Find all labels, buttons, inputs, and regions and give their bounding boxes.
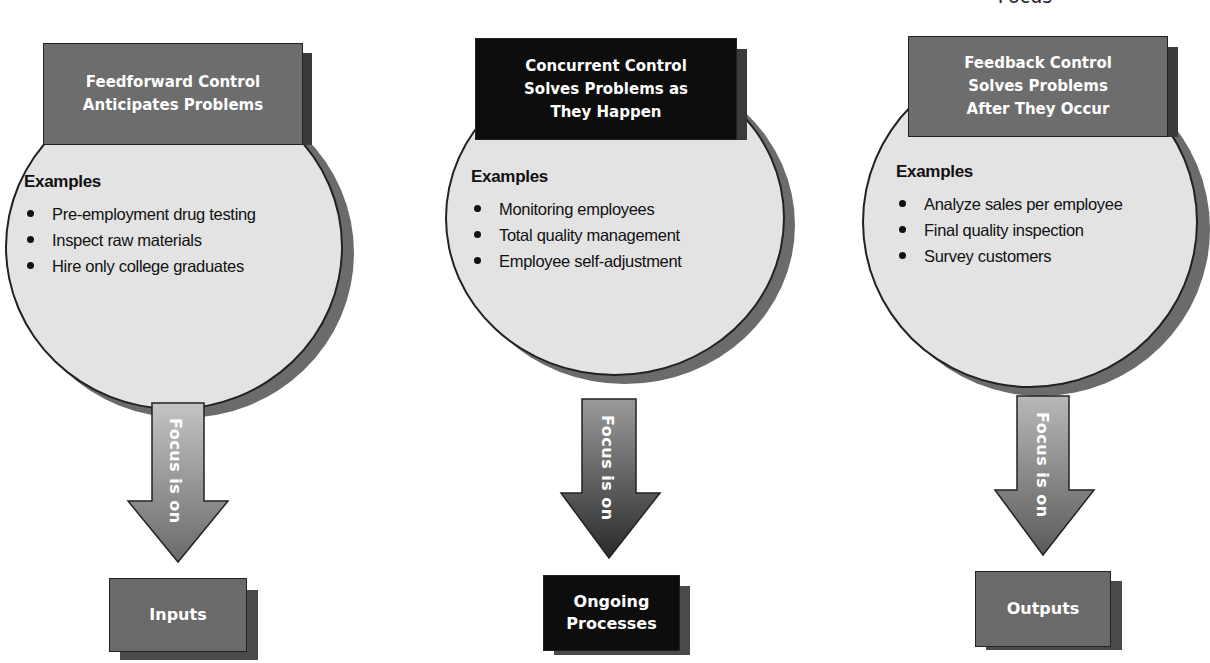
examples-block: Examples Analyze sales per employee Fina… <box>896 162 1123 269</box>
focus-box-label: Outputs <box>1007 598 1080 620</box>
example-item: Final quality inspection <box>896 217 1123 243</box>
header-feedback: Feedback Control Solves Problems After T… <box>908 36 1168 137</box>
header-line: Feedback Control <box>964 52 1112 75</box>
header-line: Solves Problems <box>964 75 1112 98</box>
arrow-label: Focus is on <box>1033 412 1052 518</box>
bullet-icon <box>899 226 906 233</box>
bullet-icon <box>899 252 906 259</box>
bullet-icon <box>899 200 906 207</box>
example-item: Survey customers <box>896 243 1123 269</box>
focus-box-outputs: Outputs <box>975 571 1111 647</box>
header-line: After They Occur <box>964 98 1112 121</box>
examples-list: Analyze sales per employee Final quality… <box>896 191 1123 269</box>
example-item: Analyze sales per employee <box>896 191 1123 217</box>
examples-title: Examples <box>896 162 1123 182</box>
